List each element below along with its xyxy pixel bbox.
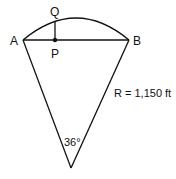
label-angle: 36° [64,136,81,148]
radius-OB [71,40,129,168]
radius-OA [23,40,71,168]
label-P: P [51,47,59,61]
label-B: B [133,34,141,48]
point-P [53,38,57,42]
label-A: A [10,34,18,48]
label-radius: R = 1,150 ft [114,87,171,99]
arc-AB [23,18,129,40]
sector-diagram: Q A B P R = 1,150 ft 36° [0,0,176,179]
label-Q: Q [50,5,59,19]
